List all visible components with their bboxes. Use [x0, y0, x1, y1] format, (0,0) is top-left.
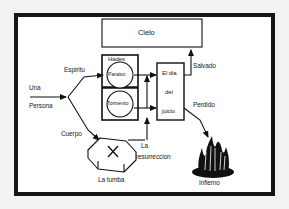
node-label-juicio-line2: del	[165, 89, 173, 95]
flames-icon	[192, 136, 234, 178]
node-label-infierno: Infierno	[199, 180, 220, 187]
node-label-tumba: La tumba	[98, 177, 124, 184]
edge-label-resurreccion-line2: resurreccion	[136, 154, 171, 161]
node-label-tormento: Tormento	[107, 101, 128, 106]
edge-label-resurreccion-line1: La	[141, 143, 148, 150]
node-label-cielo: Cielo	[138, 29, 155, 37]
edge-label-cuerpo: Cuerpo	[61, 131, 82, 138]
node-label-juicio-line1: El dia	[162, 70, 176, 76]
edge-perdido	[184, 108, 208, 137]
edge-espiritu	[68, 75, 103, 97]
edge-salvado	[184, 50, 191, 75]
node-label-paraiso: Paraiso	[108, 72, 125, 77]
edge-label-persona: Persona	[29, 103, 53, 110]
edge-label-espiritu: Espiritu	[64, 67, 85, 74]
diagram-canvas: Cielo Hades Paraiso Tormento El dia del …	[0, 0, 289, 209]
node-label-hades: Hades	[108, 56, 125, 62]
edge-label-una: Una	[29, 85, 41, 92]
node-label-juicio-line3: juicio	[162, 108, 175, 114]
edge-label-perdido: Perdido	[193, 102, 215, 109]
edge-label-salvado: Salvado	[193, 63, 216, 70]
coffin-icon	[88, 138, 136, 172]
